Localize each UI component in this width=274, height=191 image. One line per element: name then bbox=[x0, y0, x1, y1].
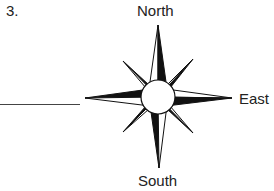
compass-rose-icon bbox=[0, 0, 274, 191]
